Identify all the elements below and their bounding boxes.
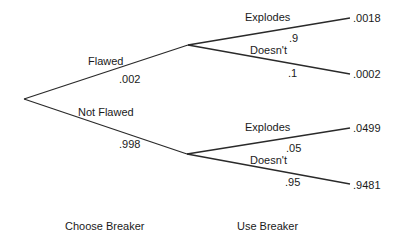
stage-label-choose-breaker: Choose Breaker: [65, 221, 145, 231]
subbranch-label-flawed-explodes: Explodes: [245, 12, 290, 23]
subbranch-label-flawed-doesnt: Doesn't: [250, 45, 287, 56]
branch-prob-not-flawed: .998: [119, 139, 140, 150]
subbranch-prob-notflawed-explodes: .05: [286, 143, 301, 154]
outcome-flawed-explodes: .0018: [353, 13, 381, 24]
subbranch-label-notflawed-doesnt: Doesn't: [250, 155, 287, 166]
branch-label-not-flawed: Not Flawed: [78, 107, 134, 118]
subbranch-prob-notflawed-doesnt: .95: [285, 177, 300, 188]
outcome-flawed-doesnt: .0002: [353, 69, 381, 80]
branch-flawed: [24, 45, 188, 99]
outcome-notflawed-doesnt: .9481: [353, 180, 381, 191]
subbranch-label-notflawed-explodes: Explodes: [245, 122, 290, 133]
stage-label-use-breaker: Use Breaker: [237, 221, 298, 231]
subbranch-prob-flawed-explodes: .9: [289, 33, 298, 44]
subbranch-prob-flawed-doesnt: .1: [288, 68, 297, 79]
branch-label-flawed: Flawed: [88, 56, 123, 67]
outcome-notflawed-explodes: .0499: [353, 123, 381, 134]
branch-prob-flawed: .002: [119, 74, 140, 85]
tree-lines: [0, 0, 402, 231]
